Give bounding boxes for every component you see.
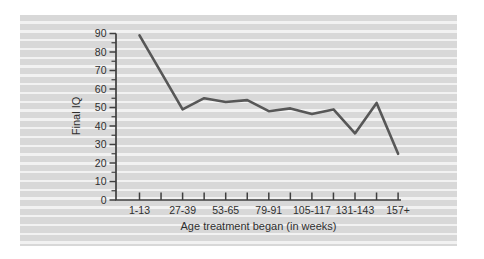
y-tick-label: 80 [95, 46, 107, 58]
x-tick-label: 105-117 [293, 204, 331, 216]
scanned-figure-page: 01020304050607080901-1327-3953-6579-9110… [0, 0, 484, 259]
final-iq-line-chart: 01020304050607080901-1327-3953-6579-9110… [0, 0, 484, 259]
y-tick-label: 90 [95, 27, 107, 39]
y-axis-title: Final IQ [70, 96, 82, 135]
y-tick-label: 10 [95, 175, 107, 187]
y-tick-label: 40 [95, 120, 107, 132]
x-tick-label: 131-143 [336, 204, 375, 216]
final-iq-data-line [140, 35, 399, 154]
x-axis-title: Age treatment began (in weeks) [181, 220, 337, 232]
y-tick-label: 0 [101, 194, 107, 206]
y-tick-label: 20 [95, 157, 107, 169]
x-tick-label: 157+ [386, 204, 410, 216]
y-tick-label: 30 [95, 138, 107, 150]
y-tick-label: 60 [95, 83, 107, 95]
axes [116, 34, 401, 201]
x-tick-label: 1-13 [129, 204, 150, 216]
x-tick-label: 53-65 [212, 204, 239, 216]
y-tick-label: 50 [95, 101, 107, 113]
x-tick-label: 27-39 [169, 204, 196, 216]
x-tick-label: 79-91 [255, 204, 282, 216]
y-tick-label: 70 [95, 64, 107, 76]
